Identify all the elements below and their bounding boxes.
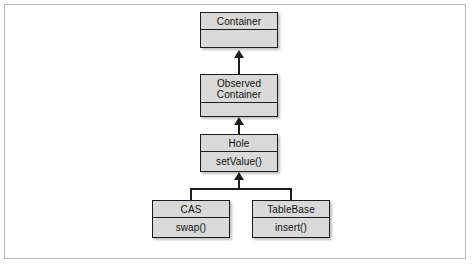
class-operations-tablebase: insert() bbox=[253, 218, 329, 237]
class-name-observed-container: Observed Container bbox=[201, 75, 277, 103]
class-operations-observed-container bbox=[201, 103, 277, 117]
arrowhead-hole-to-observed-container bbox=[234, 117, 244, 125]
arrowhead-children-to-hole bbox=[234, 172, 244, 180]
class-operations-hole: setValue() bbox=[201, 152, 277, 171]
class-name-tablebase: TableBase bbox=[253, 201, 329, 218]
class-box-hole[interactable]: Hole setValue() bbox=[200, 134, 278, 172]
class-operations-container bbox=[201, 30, 277, 47]
edge-fork-bar bbox=[190, 188, 291, 190]
class-box-tablebase[interactable]: TableBase insert() bbox=[252, 200, 330, 238]
class-name-cas: CAS bbox=[153, 201, 229, 218]
class-name-container: Container bbox=[201, 13, 277, 30]
class-box-container[interactable]: Container bbox=[200, 12, 278, 48]
diagram-canvas: Container Observed Container Hole setVal… bbox=[0, 0, 472, 265]
class-box-observed-container[interactable]: Observed Container bbox=[200, 74, 278, 117]
class-operations-cas: swap() bbox=[153, 218, 229, 237]
arrowhead-observed-container-to-container bbox=[234, 50, 244, 58]
class-name-hole: Hole bbox=[201, 135, 277, 152]
edge-observed-container-to-container bbox=[238, 58, 240, 74]
class-box-cas[interactable]: CAS swap() bbox=[152, 200, 230, 238]
